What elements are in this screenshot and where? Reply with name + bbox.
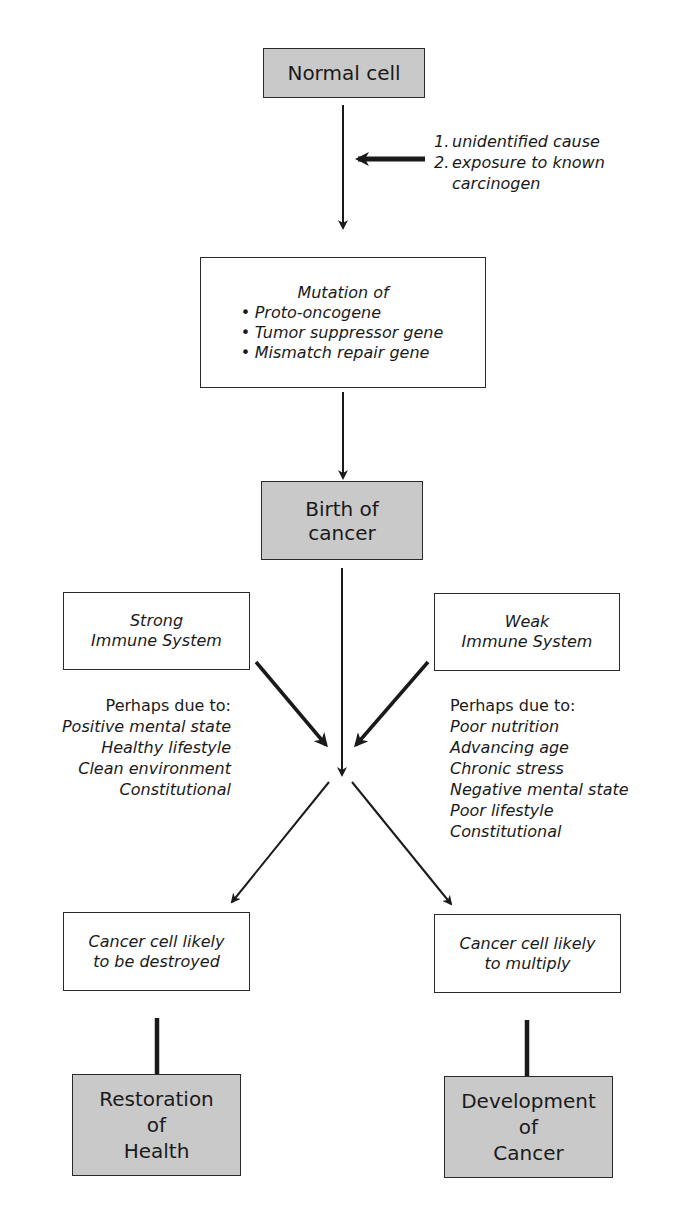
mutation-item: Tumor suppressor gene — [243, 323, 444, 343]
factor-item: Clean environment — [62, 758, 231, 779]
node-mutation: Mutation of Proto-oncogene Tumor suppres… — [200, 257, 486, 388]
node-cell-destroyed: Cancer cell likely to be destroyed — [63, 912, 250, 991]
cause-continuation: carcinogen — [434, 173, 605, 194]
node-weak-immune-system: Weak Immune System — [434, 593, 620, 671]
factor-item: Advancing age — [450, 737, 629, 758]
node-restoration-of-health: Restoration of Health — [72, 1074, 241, 1176]
factor-item: Negative mental state — [450, 779, 629, 800]
mutation-title: Mutation of — [297, 283, 388, 303]
cause-item: 1.unidentified cause — [434, 131, 605, 152]
factor-item: Chronic stress — [450, 758, 629, 779]
factor-item: Healthy lifestyle — [62, 737, 231, 758]
node-strong-immune-system: Strong Immune System — [63, 592, 250, 670]
factor-item: Constitutional — [62, 779, 231, 800]
node-normal-cell: Normal cell — [263, 48, 425, 98]
arrow-center-to-multiply — [352, 782, 451, 904]
factors-heading: Perhaps due to: — [450, 695, 629, 716]
factor-item: Poor lifestyle — [450, 800, 629, 821]
factors-heading: Perhaps due to: — [62, 695, 231, 716]
mutation-list: Proto-oncogene Tumor suppressor gene Mis… — [243, 303, 444, 363]
arrow-strong-to-center — [256, 662, 326, 745]
node-birth-of-cancer: Birth of cancer — [261, 481, 423, 560]
cause-item: 2.exposure to known — [434, 152, 605, 173]
strong-factors: Perhaps due to: Positive mental state He… — [62, 695, 231, 800]
node-label: Normal cell — [287, 61, 400, 85]
node-development-of-cancer: Development of Cancer — [444, 1076, 613, 1178]
causes-list: 1.unidentified cause 2.exposure to known… — [434, 131, 605, 194]
mutation-item: Proto-oncogene — [243, 303, 444, 323]
arrow-weak-to-center — [356, 662, 428, 745]
node-cell-multiply: Cancer cell likely to multiply — [434, 914, 621, 993]
factor-item: Positive mental state — [62, 716, 231, 737]
factor-item: Poor nutrition — [450, 716, 629, 737]
weak-factors: Perhaps due to: Poor nutrition Advancing… — [450, 695, 629, 842]
arrow-center-to-destroyed — [232, 782, 329, 902]
factor-item: Constitutional — [450, 821, 629, 842]
mutation-item: Mismatch repair gene — [243, 343, 444, 363]
